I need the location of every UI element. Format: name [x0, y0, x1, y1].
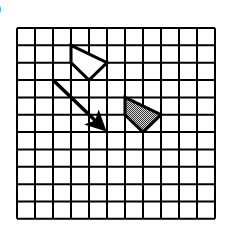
- translation-grid-diagram: [0, 0, 227, 233]
- translation-arrow: [53, 80, 104, 129]
- square-grid: [17, 28, 215, 219]
